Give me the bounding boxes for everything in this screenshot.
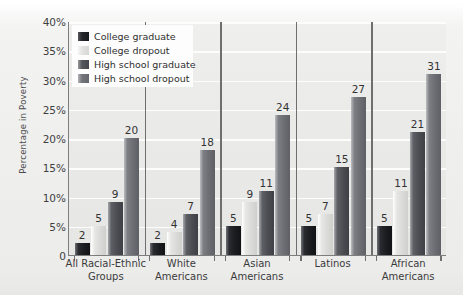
x-axis-category-label: AsianAmericans [213,258,301,283]
legend-label: College graduate [94,31,176,42]
bar-group: 5112131 [371,21,447,255]
y-axis-tick-label: 0 [20,250,66,262]
bar: 2 [150,243,165,255]
y-axis-tick-label: 5% [20,221,66,233]
bar: 9 [242,202,257,255]
bar-fill [393,191,408,255]
x-axis-label-line: All Racial-Ethnic [62,258,150,271]
bar-value-label: 2 [79,229,86,241]
bar-fill [91,226,106,255]
legend-item: College graduate [78,29,188,43]
bar-fill [242,202,257,255]
bar-value-label: 4 [171,218,178,230]
bar-value-label: 21 [411,118,424,130]
y-axis-tick-label: 15% [20,162,66,174]
x-axis-label-line: Latinos [289,258,377,271]
bar-fill [351,97,366,255]
bar: 5 [226,226,241,255]
bar: 5 [301,226,316,255]
legend-label: High school dropout [94,73,189,84]
bar: 7 [183,214,198,255]
bar: 11 [259,191,274,255]
bar-value-label: 5 [306,212,313,224]
bar: 2 [75,243,90,255]
bar: 18 [200,150,215,255]
bar: 24 [275,115,290,255]
bar-fill [150,243,165,255]
x-axis-label-line: Americans [364,271,452,284]
bar-value-label: 15 [335,153,348,165]
legend-swatch-college-dropout [78,46,89,55]
x-axis-label-line: Groups [62,271,150,284]
bar: 7 [318,214,333,255]
bar-value-label: 11 [394,177,407,189]
bar-value-label: 11 [260,177,273,189]
x-axis-label-line: White [138,258,226,271]
bar-value-label: 2 [154,229,161,241]
bar: 27 [351,97,366,255]
bar-value-label: 9 [112,188,119,200]
bar-fill [167,232,182,255]
y-axis-tick-label: 10% [20,192,66,204]
chart-figure: Percentage in Poverty 40%35%30%25%20%15%… [0,0,463,295]
y-axis-tick-label: 25% [20,104,66,116]
x-axis-label-line: Americans [138,271,226,284]
bar-value-label: 24 [276,101,289,113]
bar-fill [410,132,425,255]
legend-item: High school dropout [78,71,188,85]
bar: 31 [426,74,441,255]
y-axis-tick-label: 35% [20,45,66,57]
bar: 20 [124,138,139,255]
bar-value-label: 31 [427,60,440,72]
legend-label: High school graduate [94,59,196,70]
legend-item: College dropout [78,43,188,57]
bar: 4 [167,232,182,255]
bar-fill [200,150,215,255]
x-axis-category-label: All Racial-EthnicGroups [62,258,150,283]
bar-value-label: 5 [95,212,102,224]
bar-value-label: 27 [352,83,365,95]
bar-fill [301,226,316,255]
bar-fill [275,115,290,255]
bar-value-label: 7 [322,200,329,212]
bar-fill [334,167,349,255]
bar-fill [377,226,392,255]
bar-fill [226,226,241,255]
bar-value-label: 5 [230,212,237,224]
bar-fill [426,74,441,255]
bar-value-label: 18 [200,136,213,148]
bar: 11 [393,191,408,255]
bar-fill [124,138,139,255]
bar-fill [318,214,333,255]
x-axis-category-label: AfricanAmericans [364,258,452,283]
bar: 9 [108,202,123,255]
bar-group: 591124 [220,21,296,255]
bar: 5 [377,226,392,255]
bar-fill [75,243,90,255]
x-axis-label-line: Americans [213,271,301,284]
y-axis-tick-label: 30% [20,75,66,87]
bar-fill [259,191,274,255]
y-axis-tick-labels: 40%35%30%25%20%15%10%5%0 [18,0,66,295]
x-axis-label-line: African [364,258,452,271]
bar: 21 [410,132,425,255]
legend-swatch-high-school-dropout [78,74,89,83]
bar-group: 571527 [296,21,372,255]
y-axis-tick-label: 40% [20,16,66,28]
legend-swatch-high-school-graduate [78,60,89,69]
bar-fill [108,202,123,255]
x-axis-category-label: Latinos [289,258,377,271]
y-axis-tick-label: 20% [20,133,66,145]
legend-item: High school graduate [78,57,188,71]
bar-value-label: 5 [381,212,388,224]
legend-label: College dropout [94,45,170,56]
legend-swatch-college-graduate [78,32,89,41]
legend: College graduate College dropout High sc… [72,25,193,87]
bar-fill [183,214,198,255]
x-axis-label-line: Asian [213,258,301,271]
bar-value-label: 20 [125,124,138,136]
x-axis-category-labels: All Racial-EthnicGroupsWhiteAmericansAsi… [68,258,446,295]
bar-value-label: 7 [187,200,194,212]
bar-value-label: 9 [246,188,253,200]
bar: 5 [91,226,106,255]
